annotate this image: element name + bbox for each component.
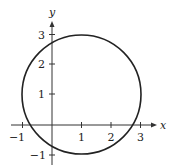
chart: −1 1 2 3 3 2 1 −1 x y: [0, 0, 173, 168]
y-tick-label: 1: [38, 88, 45, 101]
y-tick-label: 2: [38, 58, 45, 71]
y-tick-label: 3: [38, 29, 45, 42]
x-tick-label: 2: [108, 131, 115, 144]
x-tick-label: 3: [137, 131, 144, 144]
y-axis-label: y: [48, 6, 56, 19]
x-tick-label: −1: [9, 131, 25, 144]
x-axis-arrow-icon: [151, 123, 157, 128]
x-axis-label: x: [160, 119, 167, 132]
x-tick-label: 1: [78, 131, 85, 144]
y-axis-arrow-icon: [50, 21, 55, 27]
y-tick-label: −1: [30, 149, 46, 162]
